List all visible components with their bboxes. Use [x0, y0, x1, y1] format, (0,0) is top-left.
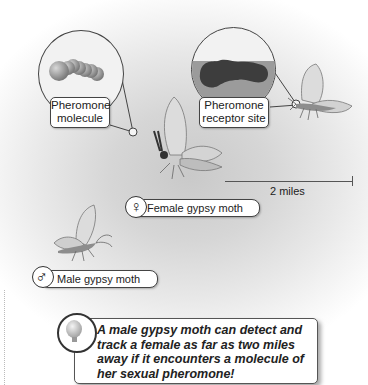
- male-label-text: Male gypsy moth: [57, 273, 140, 285]
- male-symbol-icon: ♂: [35, 267, 48, 287]
- label-line-2: molecule: [51, 112, 109, 125]
- distance-label: 2 miles: [270, 185, 305, 197]
- female-moth-icon: [148, 95, 228, 180]
- male-moth-label: Male gypsy moth: [40, 270, 158, 288]
- female-moth-label: Female gypsy moth: [130, 199, 260, 217]
- male-moth-bottom-icon: [50, 203, 120, 265]
- male-symbol-badge: ♂: [32, 266, 54, 288]
- distance-scale-end-tick: [352, 176, 353, 186]
- pheromone-molecule-label: Pheromone molecule: [50, 97, 110, 128]
- label-line-1: Pheromone: [51, 99, 109, 112]
- callout-text: A male gypsy moth can detect and track a…: [97, 323, 317, 381]
- female-label-text: Female gypsy moth: [147, 202, 243, 214]
- female-symbol-icon: ♀: [130, 197, 142, 217]
- distance-scale-line: [225, 181, 353, 182]
- female-symbol-badge: ♀: [125, 196, 147, 218]
- male-moth-top-icon: [282, 62, 362, 130]
- lightbulb-icon: [59, 315, 95, 351]
- fact-callout: A male gypsy moth can detect and track a…: [74, 318, 318, 384]
- lightbulb-badge: [57, 313, 97, 353]
